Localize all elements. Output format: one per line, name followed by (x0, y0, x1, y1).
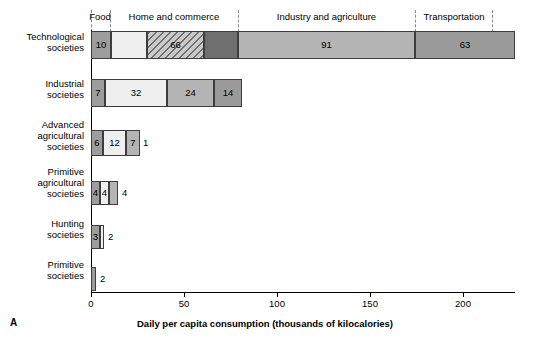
bar-value-industrial-food: 7 (92, 88, 104, 98)
bar-value-tech-transport: 63 (416, 40, 514, 50)
row-label-technological-societies: Technological societies (4, 31, 84, 53)
bar-value-primitive-food: 2 (100, 274, 105, 284)
bar-segment-hunting-food: 3 (91, 225, 100, 249)
bar-segment-primitive-food (91, 267, 96, 291)
category-divider-2 (238, 10, 239, 32)
bar-value-hunting-home: 2 (108, 232, 113, 242)
bar-value-advanced-ag-home: 12 (104, 138, 125, 148)
bar-value-advanced-ag-transport: 1 (143, 138, 148, 148)
row-label-advanced-agricultural-societies: Advanced agricultural societies (4, 119, 84, 152)
bar-segment-advanced-ag-food: 6 (91, 130, 103, 156)
bar-segment-industrial-transport: 14 (214, 79, 242, 107)
category-header-transportation: Transportation (417, 11, 491, 22)
bar-segment-tech-home-dark (204, 31, 238, 59)
bar-value-advanced-ag-food: 6 (92, 138, 102, 148)
category-divider-4 (492, 10, 493, 32)
x-tick-label-4: 200 (450, 298, 476, 309)
bar-value-hunting-food: 3 (92, 232, 99, 242)
row-label-industrial-societies: Industrial societies (4, 78, 84, 100)
bar-value-industrial-home: 32 (106, 88, 166, 98)
bar-segment-industrial-home: 32 (105, 79, 167, 107)
x-tick-label-2: 100 (264, 298, 290, 309)
bar-segment-industrial-food: 7 (91, 79, 105, 107)
bar-value-industrial-transport: 14 (215, 88, 241, 98)
bar-value-tech-food: 10 (92, 40, 110, 50)
bar-value-industrial-industry: 24 (168, 88, 213, 98)
bar-segment-primitive-ag-food: 4 (91, 181, 100, 205)
y-axis-line (91, 30, 92, 292)
x-tick-1 (184, 293, 185, 297)
bar-value-advanced-ag-industry: 7 (127, 138, 139, 148)
bar-segment-tech-home-hatched: 66 (147, 31, 204, 59)
x-tick-label-3: 150 (357, 298, 383, 309)
bar-value-primitive-ag-home: 4 (101, 188, 108, 198)
bar-segment-tech-food: 10 (91, 31, 111, 59)
x-tick-label-1: 50 (172, 298, 196, 309)
bar-value-tech-industry: 91 (239, 40, 414, 50)
bar-value-primitive-ag-industry: 4 (122, 188, 127, 198)
x-tick-4 (463, 293, 464, 297)
x-axis-line (91, 292, 515, 293)
category-divider-3 (415, 10, 416, 32)
bar-segment-advanced-ag-home: 12 (103, 130, 126, 156)
category-header-industry-and-agriculture: Industry and agriculture (240, 11, 413, 22)
x-tick-2 (277, 293, 278, 297)
bar-value-tech-home: 66 (148, 40, 203, 50)
bar-segment-tech-industry: 91 (238, 31, 415, 59)
bar-segment-industrial-industry: 24 (167, 79, 214, 107)
row-label-primitive-societies: Primitive societies (4, 259, 84, 281)
x-tick-label-0: 0 (79, 298, 103, 309)
bar-segment-primitive-ag-home: 4 (100, 181, 109, 205)
bar-segment-tech-home-light (111, 31, 147, 59)
category-header-home-and-commerce: Home and commerce (112, 11, 236, 22)
bar-segment-primitive-ag-industry (109, 181, 118, 205)
panel-letter: A (10, 317, 17, 328)
x-tick-3 (370, 293, 371, 297)
bar-value-primitive-ag-food: 4 (92, 188, 99, 198)
row-label-primitive-agricultural-societies: Primitive agricultural societies (4, 166, 84, 199)
bar-segment-hunting-home (100, 225, 104, 249)
bar-segment-advanced-ag-industry: 7 (126, 130, 140, 156)
bar-segment-tech-transport: 63 (415, 31, 515, 59)
stacked-bar-chart: Food Home and commerce Industry and agri… (0, 0, 534, 337)
row-label-hunting-societies: Hunting societies (4, 218, 84, 240)
x-tick-0 (91, 293, 92, 297)
x-axis-title: Daily per capita consumption (thousands … (137, 318, 393, 329)
